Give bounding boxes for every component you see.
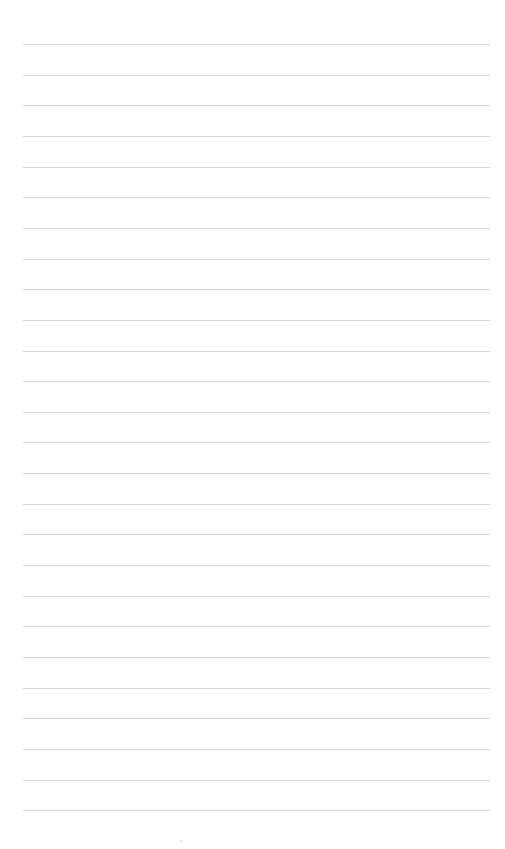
- ruled-line: [23, 473, 490, 474]
- ruled-line: [23, 504, 490, 505]
- ruled-line: [23, 412, 490, 413]
- ruled-line: [23, 197, 490, 198]
- ruled-line: [23, 534, 490, 535]
- ruled-line: [23, 381, 490, 382]
- lined-paper-page: [0, 0, 505, 849]
- ruled-line: [23, 596, 490, 597]
- ruled-line: [23, 718, 490, 719]
- ruled-line: [23, 780, 490, 781]
- ruled-line: [23, 351, 490, 352]
- ruled-line: [23, 75, 490, 76]
- ruled-line: [23, 657, 490, 658]
- ruled-line: [23, 442, 490, 443]
- ruled-line: [23, 810, 490, 811]
- ruled-line: [23, 105, 490, 106]
- ruled-line: [23, 136, 490, 137]
- ruled-line: [23, 320, 490, 321]
- ruled-line: [23, 289, 490, 290]
- ruled-line: [23, 688, 490, 689]
- ruled-line: [23, 228, 490, 229]
- ruled-line: [23, 565, 490, 566]
- scan-speck: [180, 840, 182, 842]
- ruled-line: [23, 167, 490, 168]
- ruled-line: [23, 259, 490, 260]
- ruled-line: [23, 44, 490, 45]
- ruled-line: [23, 749, 490, 750]
- ruled-line: [23, 626, 490, 627]
